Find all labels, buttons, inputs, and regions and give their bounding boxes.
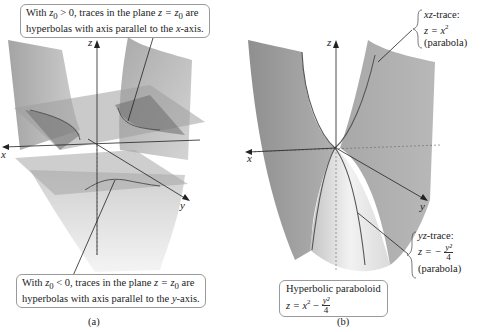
yz-fraction: y²4 (444, 243, 453, 262)
y-axis-label: y (180, 199, 185, 211)
callout-negative-line2: hyperbolas with axis parallel to the y-a… (22, 293, 200, 306)
z-axis-label-b: z (327, 36, 331, 48)
x-axis-label: x (1, 148, 6, 160)
callout-positive-line1: With z0 > 0, traces in the plane z = z0 … (26, 7, 204, 23)
callout-positive-line2: hyperbolas with axis parallel to the x-a… (26, 23, 204, 36)
figure-b: z x y xz-trace: z = x2 (parabola) yz-tra… (240, 0, 481, 332)
yz-trace-annotation: yz-trace: z = − y²4 (parabola) (418, 230, 461, 275)
label-equation: z = x2 − y²4 (286, 296, 381, 316)
xz-trace-annotation: xz-trace: z = x2 (parabola) (424, 9, 467, 49)
y-axis-label-b: y (420, 200, 425, 212)
hyperbolic-paraboloid-label: Hyperbolic paraboloid z = x2 − y²4 (279, 280, 388, 317)
callout-negative-z0: With z0 < 0, traces in the plane z = z0 … (16, 274, 206, 308)
figure-b-caption: (b) (337, 316, 349, 327)
callout-positive-z0: With z0 > 0, traces in the plane z = z0 … (20, 4, 210, 38)
figure-a-caption: (a) (88, 316, 100, 327)
label-title: Hyperbolic paraboloid (286, 283, 381, 296)
z-arrowhead (94, 40, 100, 48)
x-axis-label-b: x (247, 152, 252, 164)
z-arrowhead-b (333, 40, 339, 48)
callout-negative-line1: With z0 < 0, traces in the plane z = z0 … (22, 277, 200, 293)
figure-a: z x y With z0 > 0, traces in the plane z… (0, 0, 240, 332)
